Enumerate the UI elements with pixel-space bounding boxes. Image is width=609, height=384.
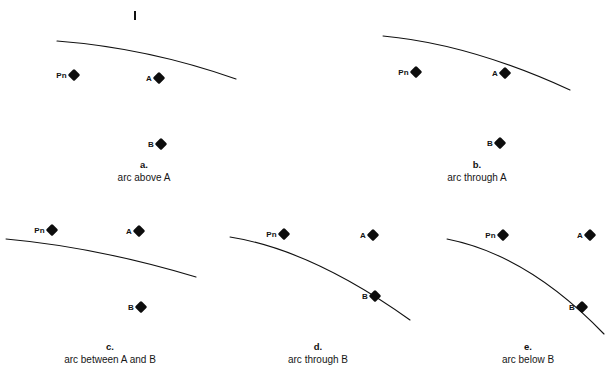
marker-label-pn-e: Pn (485, 231, 496, 240)
arc-curve-e (0, 0, 609, 384)
arc-path-e (447, 239, 604, 334)
panel-caption-e: e.arc below B (502, 340, 554, 367)
caption-letter-e: e. (502, 340, 554, 353)
marker-label-b-e: B (569, 303, 575, 312)
caption-text-e: arc below B (502, 353, 554, 367)
celestial-arc-figure: PnABa.arc above APnABb.arc through APnAB… (0, 0, 609, 384)
marker-label-a-e: A (577, 231, 583, 240)
